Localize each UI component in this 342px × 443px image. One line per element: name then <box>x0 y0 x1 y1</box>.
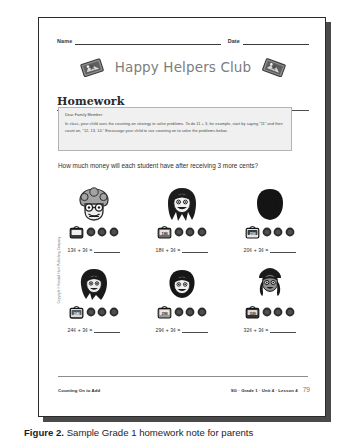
equation-text: 20¢ + 3¢ = <box>244 247 269 253</box>
purse-amount-label: 20¢ <box>245 231 260 236</box>
money-row: 13¢ <box>69 224 119 240</box>
worksheet-page: Copyright © Kendall Hunt Publishing Comp… <box>38 17 326 417</box>
page-footer: Counting On to Add SG · Grade 1 · Unit 4… <box>58 386 310 393</box>
footer-divider <box>58 376 308 377</box>
answer-blank[interactable] <box>270 246 296 253</box>
answer-blank[interactable] <box>270 326 296 333</box>
coin-icon <box>97 227 107 237</box>
coin-icon <box>273 227 283 237</box>
equation-text: 24¢ + 3¢ = <box>68 327 93 333</box>
coin-icon <box>109 227 119 237</box>
coin-icon <box>109 307 119 317</box>
answer-blank[interactable] <box>182 326 208 333</box>
coin-purse-icon: 24¢ <box>69 305 84 319</box>
coin-icon <box>97 307 107 317</box>
answer-blank[interactable] <box>94 326 120 333</box>
coin-icon <box>285 307 295 317</box>
problem-cell: 13¢ 13¢ + 3¢ = <box>53 185 135 253</box>
problem-cell: 24¢ 24¢ + 3¢ = <box>53 265 135 333</box>
equation-line: 18¢ + 3¢ = <box>141 246 223 253</box>
name-label: Name <box>57 38 72 45</box>
family-letter-box: Dear Family Member: In class, your child… <box>58 107 292 151</box>
equation-line: 20¢ + 3¢ = <box>229 246 311 253</box>
money-row: 20¢ <box>245 224 295 240</box>
coin-purse-icon: 29¢ <box>157 305 172 319</box>
letter-body: In class, your child uses the counting-o… <box>65 121 285 135</box>
coin-icon <box>174 227 184 237</box>
purse-amount-label: 24¢ <box>69 311 84 316</box>
coin-icon <box>273 307 283 317</box>
coin-icon <box>262 227 272 237</box>
coin-icon <box>86 307 96 317</box>
coin-icon <box>262 307 272 317</box>
figure-container: Copyright © Kendall Hunt Publishing Comp… <box>0 0 342 443</box>
purse-amount-label: 18¢ <box>157 231 172 236</box>
coin-icon <box>197 307 207 317</box>
problem-row: 24¢ 24¢ + 3¢ = <box>53 265 311 333</box>
footer-lesson-title: Counting On to Add <box>58 388 100 393</box>
section-heading: Homework <box>57 96 124 108</box>
coin-purse-icon: 18¢ <box>157 225 172 239</box>
money-row: 24¢ <box>69 304 119 320</box>
figure-caption-label: Figure 2. <box>24 427 64 438</box>
coin-icon <box>285 227 295 237</box>
coin-icon <box>185 307 195 317</box>
figure-caption-text: Sample Grade 1 homework note for parents <box>67 427 254 438</box>
name-date-row: Name Date <box>57 37 309 45</box>
coin-icon <box>174 307 184 317</box>
club-banner: Happy Helpers Club <box>57 51 309 83</box>
letter-salutation: Dear Family Member: <box>65 112 285 117</box>
student-face-long-dark-hair-icon <box>160 185 204 223</box>
equation-text: 29¢ + 3¢ = <box>156 327 181 333</box>
footer-reference: SG · Grade 1 · Unit 4 · Lesson 4 <box>231 388 298 393</box>
money-row: 18¢ <box>157 224 207 240</box>
footer-right-group: SG · Grade 1 · Unit 4 · Lesson 4 79 <box>231 386 310 393</box>
purse-amount-label: 13¢ <box>69 231 84 236</box>
equation-text: 32¢ + 3¢ = <box>244 327 269 333</box>
equation-text: 13¢ + 3¢ = <box>68 247 93 253</box>
problem-row: 13¢ 13¢ + 3¢ = <box>53 185 311 253</box>
club-title: Happy Helpers Club <box>115 59 252 75</box>
problem-cell: 32¢ 32¢ + 3¢ = <box>229 265 311 333</box>
problem-cell: 29¢ 29¢ + 3¢ = <box>141 265 223 333</box>
purse-amount-label: 32¢ <box>245 311 260 316</box>
purse-amount-label: 29¢ <box>157 311 172 316</box>
sticker-badge-icon <box>261 58 287 77</box>
coin-purse-icon: 32¢ <box>245 305 260 319</box>
question-prompt: How much money will each student have af… <box>58 161 298 171</box>
figure-caption: Figure 2. Sample Grade 1 homework note f… <box>24 427 334 438</box>
date-label: Date <box>228 38 240 45</box>
sticker-badge-icon <box>79 58 105 77</box>
problem-cell: 18¢ 18¢ + 3¢ = <box>141 185 223 253</box>
coin-icon <box>86 227 96 237</box>
coin-icon <box>197 227 207 237</box>
equation-line: 24¢ + 3¢ = <box>53 326 135 333</box>
coin-icon <box>185 227 195 237</box>
money-row: 32¢ <box>245 304 295 320</box>
equation-text: 18¢ + 3¢ = <box>156 247 181 253</box>
date-input-line[interactable] <box>243 37 309 45</box>
student-face-braids-icon <box>248 265 292 303</box>
coin-purse-icon: 20¢ <box>245 225 260 239</box>
student-face-bob-hair-icon <box>160 265 204 303</box>
student-face-wavy-hair-icon <box>72 265 116 303</box>
equation-line: 29¢ + 3¢ = <box>141 326 223 333</box>
answer-blank[interactable] <box>182 246 208 253</box>
answer-blank[interactable] <box>94 246 120 253</box>
equation-line: 32¢ + 3¢ = <box>229 326 311 333</box>
student-face-curly-glasses-icon <box>72 185 116 223</box>
name-input-line[interactable] <box>75 37 220 45</box>
money-row: 29¢ <box>157 304 207 320</box>
problem-cell: 20¢ 20¢ + 3¢ = <box>229 185 311 253</box>
student-face-short-dark-hair-icon <box>248 185 292 223</box>
page-number: 79 <box>303 386 310 393</box>
equation-line: 13¢ + 3¢ = <box>53 246 135 253</box>
coin-purse-icon: 13¢ <box>69 225 84 239</box>
